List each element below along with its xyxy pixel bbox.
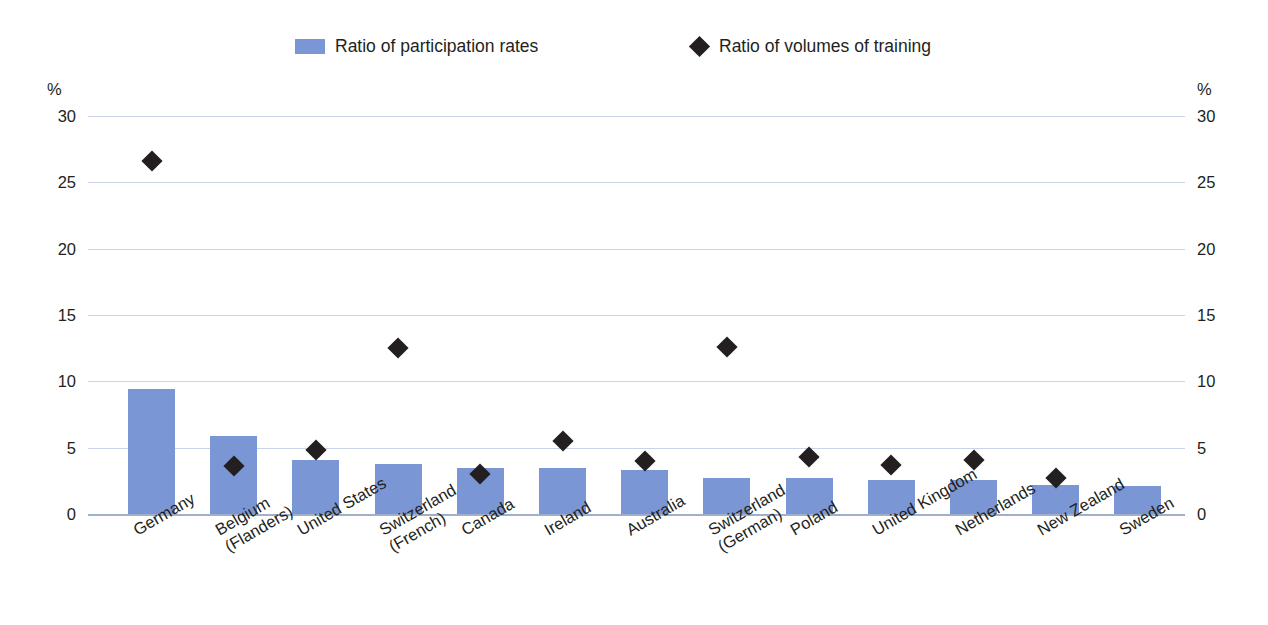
gridline-25 <box>88 182 1185 183</box>
y-tick-right-5: 5 <box>1197 440 1237 456</box>
y-tick-right-10: 10 <box>1197 373 1237 389</box>
y-axis-unit-left: % <box>47 80 62 99</box>
gridline-15 <box>88 315 1185 316</box>
diamond-marker <box>305 440 326 461</box>
chart-container: Ratio of participation rates Ratio of vo… <box>0 0 1268 625</box>
diamond-marker <box>798 446 819 467</box>
legend-label-participation-rates: Ratio of participation rates <box>335 36 538 56</box>
gridline-30 <box>88 116 1185 117</box>
y-tick-left-0: 0 <box>36 506 76 522</box>
diamond-marker <box>881 454 902 475</box>
chart-legend: Ratio of participation rates Ratio of vo… <box>0 36 1268 66</box>
y-tick-right-30: 30 <box>1197 108 1237 124</box>
y-tick-left-20: 20 <box>36 241 76 257</box>
legend-label-volumes-of-training: Ratio of volumes of training <box>719 36 931 56</box>
diamond-marker <box>387 338 408 359</box>
bar-swatch-icon <box>295 39 325 54</box>
legend-item-participation-rates: Ratio of participation rates <box>295 36 538 56</box>
plot-area: 005510101515202025253030 <box>88 116 1185 514</box>
y-tick-left-25: 25 <box>36 174 76 190</box>
y-tick-right-20: 20 <box>1197 241 1237 257</box>
y-tick-right-25: 25 <box>1197 174 1237 190</box>
gridline-20 <box>88 249 1185 250</box>
y-tick-right-0: 0 <box>1197 506 1237 522</box>
diamond-marker-icon <box>689 35 710 56</box>
y-tick-left-30: 30 <box>36 108 76 124</box>
gridline-10 <box>88 381 1185 382</box>
y-tick-right-15: 15 <box>1197 307 1237 323</box>
y-axis-unit-right: % <box>1197 80 1212 99</box>
y-tick-left-10: 10 <box>36 373 76 389</box>
legend-item-volumes-of-training: Ratio of volumes of training <box>690 36 931 56</box>
bar <box>128 389 175 514</box>
diamond-marker <box>141 150 162 171</box>
diamond-marker <box>634 450 655 471</box>
y-tick-left-5: 5 <box>36 440 76 456</box>
y-tick-left-15: 15 <box>36 307 76 323</box>
diamond-marker <box>716 336 737 357</box>
